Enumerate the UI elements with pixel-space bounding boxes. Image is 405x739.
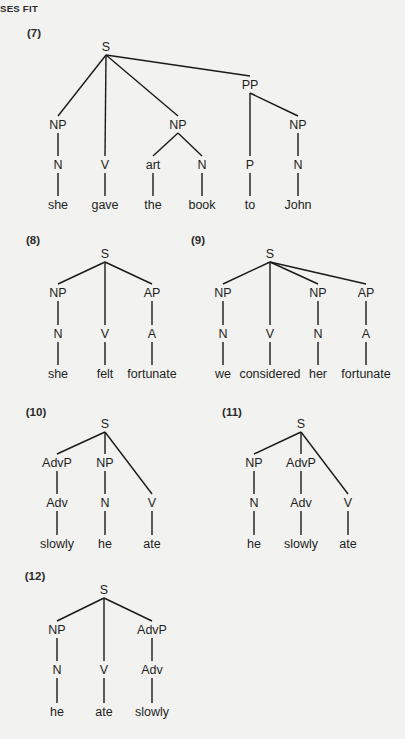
tree-branch bbox=[178, 133, 202, 156]
tree-branch bbox=[105, 262, 152, 284]
category-node: S bbox=[101, 417, 109, 431]
terminal-word: slowly bbox=[40, 537, 75, 551]
tree-branch bbox=[254, 432, 301, 454]
terminal-word: fortunate bbox=[127, 367, 176, 381]
category-node: NP bbox=[49, 118, 66, 132]
tree-branch bbox=[153, 133, 178, 156]
terminal-word: book bbox=[188, 198, 216, 212]
category-node: V bbox=[101, 327, 110, 341]
category-node: V bbox=[100, 663, 109, 677]
example-number: (9) bbox=[191, 234, 205, 246]
category-node: art bbox=[146, 158, 161, 172]
category-node: S bbox=[297, 417, 305, 431]
category-node: V bbox=[344, 496, 353, 510]
category-node: S bbox=[100, 583, 108, 597]
category-node: NP bbox=[49, 286, 66, 300]
category-node: Adv bbox=[290, 496, 312, 510]
terminal-word: ate bbox=[95, 705, 112, 719]
terminal-word: to bbox=[245, 198, 255, 212]
terminal-word: she bbox=[48, 367, 68, 381]
terminal-word: her bbox=[309, 367, 327, 381]
category-node: AdvP bbox=[286, 456, 316, 470]
category-node: N bbox=[52, 663, 61, 677]
terminal-word: considered bbox=[239, 367, 300, 381]
category-node: AdvP bbox=[137, 623, 167, 637]
terminal-word: he bbox=[50, 705, 64, 719]
terminal-word: fortunate bbox=[341, 367, 390, 381]
category-node: N bbox=[249, 496, 258, 510]
category-node: V bbox=[148, 496, 157, 510]
category-node: N bbox=[100, 496, 109, 510]
category-node: N bbox=[197, 158, 206, 172]
terminal-word: she bbox=[48, 198, 68, 212]
category-node: S bbox=[101, 247, 109, 261]
tree-branch bbox=[250, 93, 298, 116]
category-node: AP bbox=[358, 286, 375, 300]
category-node: N bbox=[53, 327, 62, 341]
category-node: AdvP bbox=[42, 456, 72, 470]
example-number: (11) bbox=[222, 406, 242, 418]
terminal-word: gave bbox=[91, 198, 118, 212]
tree-branch bbox=[104, 598, 152, 621]
terminal-word: we bbox=[214, 367, 231, 381]
category-node: NP bbox=[169, 118, 186, 132]
tree-branch bbox=[270, 262, 318, 284]
terminal-word: he bbox=[247, 537, 261, 551]
tree-branch bbox=[58, 55, 106, 116]
tree-branch bbox=[223, 262, 270, 284]
category-node: NP bbox=[48, 623, 65, 637]
category-node: PP bbox=[242, 78, 259, 92]
tree-branch bbox=[57, 432, 105, 454]
category-node: N bbox=[53, 158, 62, 172]
category-node: NP bbox=[214, 286, 231, 300]
terminal-word: slowly bbox=[135, 705, 170, 719]
terminal-word: slowly bbox=[284, 537, 319, 551]
category-node: P bbox=[246, 158, 254, 172]
category-node: NP bbox=[245, 456, 262, 470]
terminal-word: he bbox=[98, 537, 112, 551]
tree-example-12: (12)SNPVAdvPNAdvheateslowly bbox=[25, 570, 170, 719]
terminal-word: felt bbox=[97, 367, 114, 381]
tree-branch bbox=[270, 262, 366, 284]
category-node: V bbox=[101, 158, 110, 172]
tree-example-10: (10)SAdvPNPVAdvNslowlyheate bbox=[26, 406, 161, 551]
category-node: N bbox=[293, 158, 302, 172]
category-node: N bbox=[218, 327, 227, 341]
category-node: Adv bbox=[46, 496, 68, 510]
example-number: (8) bbox=[26, 234, 40, 246]
tree-example-11: (11)SNPAdvPVNAdvheslowlyate bbox=[222, 406, 357, 551]
tree-branch bbox=[105, 55, 106, 156]
category-node: V bbox=[266, 327, 275, 341]
terminal-word: John bbox=[284, 198, 311, 212]
category-node: AP bbox=[144, 286, 161, 300]
terminal-word: the bbox=[144, 198, 161, 212]
category-node: Adv bbox=[141, 663, 163, 677]
terminal-word: ate bbox=[339, 537, 356, 551]
category-node: A bbox=[362, 327, 371, 341]
terminal-word: ate bbox=[143, 537, 160, 551]
tree-example-7: (7)SNPVNPPPNartNPNPNshegavethebooktoJohn bbox=[27, 27, 312, 212]
example-number: (12) bbox=[25, 570, 46, 582]
syntax-tree-figures: (7)SNPVNPPPNartNPNPNshegavethebooktoJohn… bbox=[0, 0, 405, 739]
tree-example-9: (9)SNPVNPAPNNAweconsideredherfortunate bbox=[191, 234, 391, 381]
tree-branch bbox=[58, 262, 105, 284]
tree-branch bbox=[57, 598, 104, 621]
example-number: (10) bbox=[26, 406, 47, 418]
category-node: S bbox=[102, 40, 110, 54]
example-number: (7) bbox=[27, 27, 41, 39]
category-node: NP bbox=[309, 286, 326, 300]
category-node: N bbox=[313, 327, 322, 341]
category-node: S bbox=[266, 247, 274, 261]
category-node: A bbox=[148, 327, 157, 341]
category-node: NP bbox=[96, 456, 113, 470]
category-node: NP bbox=[289, 118, 306, 132]
tree-example-8: (8)SNPVAPNAshefeltfortunate bbox=[26, 234, 177, 381]
